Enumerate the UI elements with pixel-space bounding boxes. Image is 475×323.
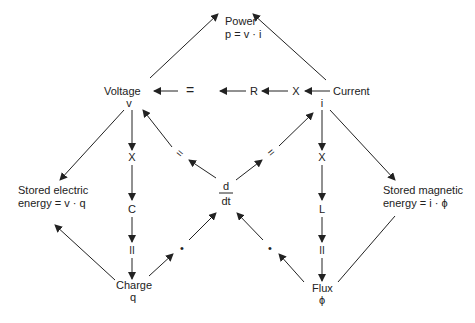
- arrow-voltage-to-stored-electric: [60, 110, 124, 180]
- op-equals-left: II: [129, 245, 135, 256]
- current-symbol: i: [321, 97, 323, 109]
- arrow-current-to-stored-magnetic: [330, 110, 395, 180]
- op-equals-right: II: [319, 245, 325, 256]
- line-flux-to-stored-magnetic: [338, 216, 395, 282]
- arrow-equals-to-voltage-diag: [143, 110, 172, 147]
- stored-magnetic-energy-node: Stored magnetic energy = i · ϕ: [383, 184, 464, 209]
- arrow-derivative-to-equals-right: [236, 160, 262, 180]
- power-formula: p = v · i: [225, 28, 261, 40]
- stored-magnetic-line1: Stored magnetic: [383, 184, 464, 196]
- arrow-derivative-to-equals-left: [189, 160, 216, 178]
- charge-node: Charge q: [116, 279, 152, 303]
- voltage-node: Voltage v: [104, 85, 141, 109]
- op-resistance: R: [250, 85, 258, 97]
- power-node: Power p = v · i: [225, 15, 261, 40]
- stored-electric-line1: Stored electric: [18, 184, 89, 196]
- circuit-relations-diagram: Power p = v · i Voltage v Current i Char…: [0, 0, 475, 323]
- op-dot-left: •: [180, 242, 184, 254]
- voltage-label: Voltage: [104, 85, 141, 97]
- current-label: Current: [333, 85, 370, 97]
- charge-label: Charge: [116, 279, 152, 291]
- current-node: Current i: [321, 85, 370, 109]
- arrow-charge-to-stored-electric: [55, 225, 115, 280]
- op-dot-right: •: [268, 242, 272, 254]
- arrow-voltage-to-power: [150, 14, 218, 78]
- arrow-dot-to-derivative: [189, 213, 216, 240]
- stored-electric-energy-node: Stored electric energy = v · q: [18, 184, 89, 209]
- op-equals-diag-right: =: [265, 145, 278, 158]
- stored-electric-line2: energy = v · q: [18, 197, 86, 209]
- op-capacitance: C: [128, 203, 136, 215]
- derivative-denominator: dt: [221, 195, 230, 207]
- power-label: Power: [225, 15, 257, 27]
- charge-symbol: q: [130, 291, 136, 303]
- arrow-charge-to-dot: [149, 254, 173, 276]
- derivative-numerator: d: [223, 180, 229, 192]
- flux-node: Flux ϕ: [312, 282, 333, 306]
- arrow-dot-to-derivative-right: [237, 213, 263, 240]
- op-equals-top: =: [186, 82, 194, 98]
- voltage-symbol: v: [126, 97, 132, 109]
- derivative-node: d dt: [219, 180, 233, 207]
- op-times-right: X: [318, 151, 326, 163]
- arrow-current-to-power: [253, 14, 326, 80]
- op-times-top: X: [292, 85, 300, 97]
- stored-magnetic-line2: energy = i · ϕ: [383, 197, 448, 209]
- flux-symbol: ϕ: [319, 294, 325, 306]
- arrow-equals-to-current-diag: [279, 113, 313, 146]
- flux-label: Flux: [312, 282, 333, 294]
- op-times-left: X: [128, 151, 136, 163]
- op-inductance: L: [319, 203, 325, 215]
- arrow-flux-to-dot: [279, 254, 304, 282]
- op-equals-diag-left: =: [174, 146, 187, 159]
